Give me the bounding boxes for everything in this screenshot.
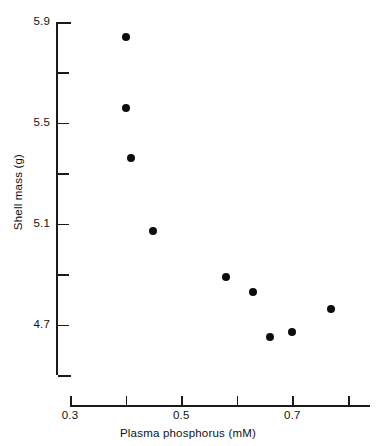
data-point <box>149 227 157 235</box>
x-tick-minor <box>237 396 239 405</box>
y-tick-minor <box>58 375 71 377</box>
y-tick-label: 5.5 <box>6 116 50 128</box>
y-tick-label: 5.9 <box>6 15 50 27</box>
data-point <box>127 154 135 162</box>
y-tick-major <box>58 325 69 327</box>
data-point <box>327 305 335 313</box>
x-tick-minor <box>348 396 350 405</box>
x-tick-label: 0.5 <box>161 409 201 421</box>
y-tick-major <box>58 123 69 125</box>
y-tick-major <box>58 22 71 24</box>
data-point <box>122 104 130 112</box>
x-tick-label: 0.3 <box>50 409 90 421</box>
data-point <box>266 333 274 341</box>
x-axis-line <box>70 405 370 407</box>
data-point <box>222 273 230 281</box>
scatter-plot-figure: 5.95.55.14.7 0.30.50.7 Shell mass (g) Pl… <box>0 0 376 446</box>
y-axis-title: Shell mass (g) <box>12 142 24 242</box>
x-tick-minor <box>126 396 128 405</box>
x-tick-major <box>70 396 72 405</box>
y-tick-label: 4.7 <box>6 318 50 330</box>
x-axis-title: Plasma phosphorus (mM) <box>0 427 376 439</box>
data-point <box>288 328 296 336</box>
y-tick-minor <box>58 274 69 276</box>
y-axis-line <box>56 22 58 375</box>
data-point <box>249 288 257 296</box>
y-tick-minor <box>58 72 69 74</box>
x-tick-major <box>292 396 294 405</box>
y-tick-major <box>58 224 69 226</box>
data-point <box>122 33 130 41</box>
x-tick-label: 0.7 <box>272 409 312 421</box>
x-tick-major <box>181 396 183 405</box>
y-tick-minor <box>58 173 69 175</box>
